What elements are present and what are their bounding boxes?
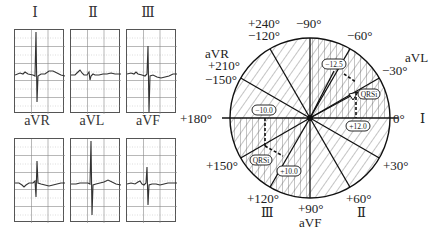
svg-text:QRSi: QRSi xyxy=(253,156,270,165)
qrs-badge-lower: QRSi xyxy=(250,155,272,165)
svg-text:−12.5: −12.5 xyxy=(325,60,343,69)
label-lead-III: Ⅲ xyxy=(261,205,274,220)
label-plus180: +180° xyxy=(180,111,212,126)
qrs-badge-upper: QRSi xyxy=(358,89,380,99)
label-lead-I: Ⅰ xyxy=(420,111,425,126)
label-plus30: +30° xyxy=(383,158,409,173)
label-neg120: −120° xyxy=(248,28,280,43)
label-0deg: 0° xyxy=(393,111,405,126)
label-neg150: −150° xyxy=(205,72,237,87)
label-plus120: +120° xyxy=(247,191,279,206)
value-badge-upper: −12.5 xyxy=(322,59,346,69)
svg-text:+10.0: +10.0 xyxy=(280,167,298,176)
value-badge-lower-left: −10.0 xyxy=(252,105,276,115)
label-neg30: −30° xyxy=(382,63,408,78)
label-aVL: aVL xyxy=(405,50,428,65)
label-aVF: aVF xyxy=(299,215,321,230)
svg-text:QRSi: QRSi xyxy=(361,90,378,99)
svg-text:−10.0: −10.0 xyxy=(255,106,273,115)
svg-text:+12.0: +12.0 xyxy=(349,122,367,131)
label-plus90: +90° xyxy=(298,201,324,216)
value-badge-lower: +10.0 xyxy=(277,166,301,176)
hexaxial-reference-diagram: −12.5 QRSi +12.0 −10.0 QRSi +10.0 0° Ⅰ −… xyxy=(0,0,436,239)
label-plus210: +210° xyxy=(208,58,240,73)
label-neg60: −60° xyxy=(347,28,373,43)
label-neg90: −90° xyxy=(296,16,322,31)
label-plus150: +150° xyxy=(206,158,238,173)
value-badge-upper-right: +12.0 xyxy=(346,121,370,131)
label-plus60: +60° xyxy=(346,191,372,206)
label-lead-II: Ⅱ xyxy=(357,205,366,220)
